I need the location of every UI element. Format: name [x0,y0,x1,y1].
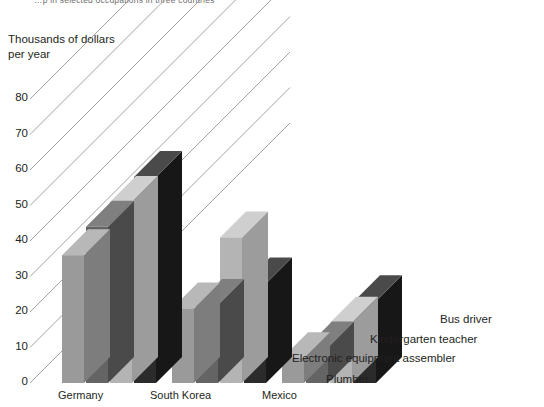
y-tick-0: 0 [2,375,28,387]
bars [62,151,402,383]
y-tick-80: 80 [2,91,28,103]
y-tick-30: 30 [2,269,28,281]
legend-label-plumber: Plumber [326,373,369,385]
y-tick-50: 50 [2,198,28,210]
legend-label-electronic-equipment-assembler: Electronic equipment assembler [292,352,456,364]
legend-label-kindergarten-teacher: Kindergarten teacher [370,333,477,345]
legend-label-bus-driver: Bus driver [440,313,492,325]
x-label-mexico: Mexico [262,389,297,401]
y-tick-60: 60 [2,162,28,174]
y-tick-40: 40 [2,233,28,245]
chart-root: …p in selected occupations in three coun… [0,0,544,407]
y-tick-10: 10 [2,340,28,352]
gridline [30,0,290,170]
y-tick-20: 20 [2,304,28,316]
gridline [30,0,290,99]
bar-germany-s1 [62,229,110,383]
chart-plot-area [0,0,544,407]
x-label-south-korea: South Korea [150,389,211,401]
x-label-germany: Germany [58,389,103,401]
y-tick-70: 70 [2,127,28,139]
